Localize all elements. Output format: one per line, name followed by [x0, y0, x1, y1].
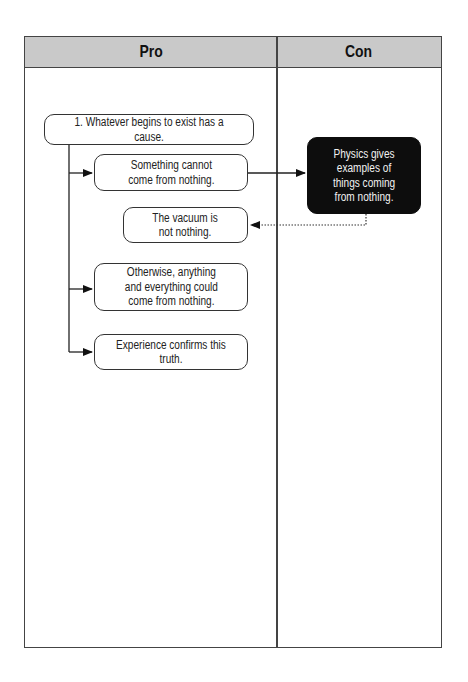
node-text: The vacuum is not nothing.: [153, 211, 219, 240]
node-otherwise: Otherwise, anything and everything could…: [94, 263, 248, 311]
node-experience: Experience confirms this truth.: [94, 334, 248, 370]
node-physics: Physics gives examples of things coming …: [307, 137, 421, 214]
column-header-pro-label: Pro: [139, 42, 162, 62]
node-text: Experience confirms this truth.: [107, 338, 235, 367]
claim-box: 1. Whatever begins to exist has a cause.: [44, 114, 254, 145]
column-header-con-label: Con: [345, 42, 372, 62]
column-header-pro: Pro: [25, 37, 277, 68]
node-text: Otherwise, anything and everything could…: [124, 265, 217, 308]
node-text: Something cannot come from nothing.: [128, 158, 214, 187]
node-vacuum: The vacuum is not nothing.: [123, 207, 248, 243]
node-text: Physics gives examples of things coming …: [333, 147, 395, 205]
node-something-cannot: Something cannot come from nothing.: [94, 154, 248, 191]
claim-text: 1. Whatever begins to exist has a cause.: [62, 115, 237, 144]
column-header-con: Con: [277, 37, 441, 68]
column-divider: [276, 37, 278, 647]
